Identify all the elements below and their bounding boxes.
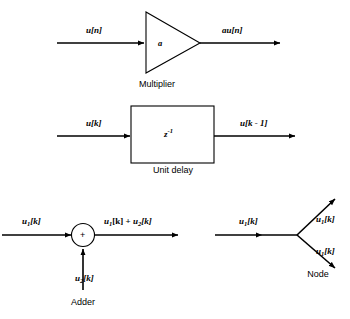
unit-delay-caption: Unit delay: [133, 166, 213, 175]
adder-plus-symbol: +: [80, 231, 85, 240]
multiplier-caption: Multiplier: [118, 80, 196, 89]
diagram-canvas: u[n] a au[n] Multiplier u[k] z-1 u[k - 1…: [0, 0, 350, 319]
unit-delay-group: [57, 106, 295, 163]
node-group: [215, 199, 335, 268]
multiplier-gain-label: a: [158, 38, 162, 48]
unit-delay-output-label: u[k - 1]: [240, 119, 268, 128]
unit-delay-operator-label: z-1: [164, 130, 173, 139]
adder-caption: Adder: [52, 298, 114, 307]
node-branch-lower-label: u1[k]: [316, 247, 335, 256]
unit-delay-input-label: u[k]: [86, 119, 102, 128]
node-branch-upper-label: u1[k]: [316, 215, 335, 224]
multiplier-output-label: au[n]: [222, 26, 243, 35]
multiplier-triangle: [146, 12, 200, 73]
node-caption: Node: [293, 270, 343, 279]
adder-input2-label: u2[k]: [75, 274, 94, 283]
multiplier-group: [57, 12, 280, 73]
multiplier-input-label: u[n]: [86, 26, 102, 35]
adder-input1-label: u1[k]: [22, 217, 41, 226]
adder-output-label: u1[k] + u2[k]: [104, 217, 152, 226]
node-input-label: u1[k]: [239, 217, 258, 226]
